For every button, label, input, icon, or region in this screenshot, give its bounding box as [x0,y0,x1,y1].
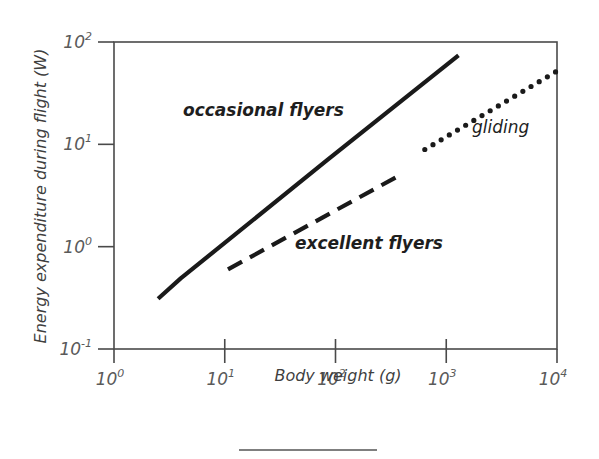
x-tick-label: 104 [539,367,568,389]
y-tick-label: 101 [63,132,92,154]
y-axis-tick-labels: 10-1100101102 [59,30,92,359]
series-layer [158,55,557,298]
series-occasional-flyers [158,55,458,298]
x-tick-label: 101 [206,367,235,389]
annotation-excellent-flyers: excellent flyers [295,233,443,253]
annotation-occasional-flyers: occasional flyers [183,100,344,120]
y-axis-ticks [98,42,114,349]
y-tick-label: 100 [63,235,92,257]
plot-area [114,42,557,349]
y-tick-label: 10-1 [59,337,92,359]
y-axis-title: Energy expenditure during flight (W) [31,49,50,344]
x-axis-ticks [114,339,557,363]
annotation-gliding: gliding [472,117,530,137]
series-gliding [425,71,557,149]
chart: 100101102103104 10-1100101102 Body weigh… [0,0,599,459]
y-tick-label: 102 [63,30,92,52]
x-tick-label: 103 [428,367,457,389]
plot-frame [114,42,557,349]
x-axis-title: Body weight (g) [274,366,401,385]
x-tick-label: 100 [96,367,125,389]
